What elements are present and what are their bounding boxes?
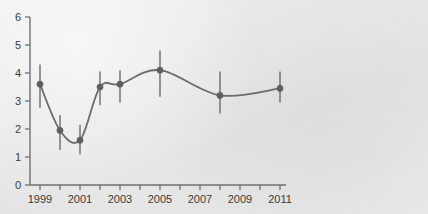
y-axis-tick-label: 1 xyxy=(15,151,21,163)
y-axis: 0123456 xyxy=(15,11,30,191)
x-axis-tick-label: 2007 xyxy=(188,193,212,205)
data-point-marker xyxy=(117,81,123,87)
x-axis-tick-label: 2009 xyxy=(228,193,252,205)
x-axis-tick-label: 2001 xyxy=(68,193,92,205)
x-axis: 1999200120032005200720092011 xyxy=(28,185,292,205)
data-point-marker xyxy=(277,85,283,91)
y-axis-tick-label: 4 xyxy=(15,67,21,79)
data-point-marker xyxy=(77,137,83,143)
data-point-marker xyxy=(57,127,63,133)
y-axis-tick-label: 2 xyxy=(15,123,21,135)
x-axis-tick-label: 2011 xyxy=(268,193,292,205)
data-point-marker xyxy=(217,92,223,98)
data-point-marker xyxy=(97,84,103,90)
chart-container: 0123456 1999200120032005200720092011 xyxy=(0,0,428,214)
y-axis-tick-label: 6 xyxy=(15,11,21,23)
x-axis-tick-label: 1999 xyxy=(28,193,52,205)
line-chart-plot: 0123456 1999200120032005200720092011 xyxy=(0,0,428,214)
error-bars xyxy=(40,51,280,155)
data-point-marker xyxy=(37,81,43,87)
y-axis-tick-label: 3 xyxy=(15,95,21,107)
y-axis-tick-label: 5 xyxy=(15,39,21,51)
y-axis-tick-label: 0 xyxy=(15,179,21,191)
x-axis-tick-label: 2003 xyxy=(108,193,132,205)
x-axis-tick-label: 2005 xyxy=(148,193,172,205)
data-point-marker xyxy=(157,67,163,73)
